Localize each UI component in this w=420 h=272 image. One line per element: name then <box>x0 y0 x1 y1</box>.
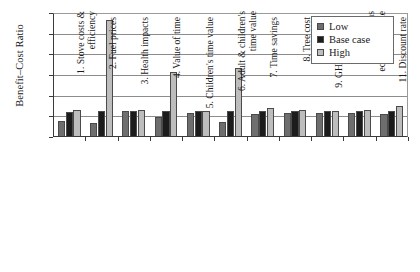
y-tick-mark <box>49 137 53 138</box>
legend-item-low: Low <box>317 20 388 33</box>
x-label-line: 7. Time savings <box>268 17 279 141</box>
x-label-line: efficiency <box>86 11 97 135</box>
legend-label: Base case <box>329 34 370 46</box>
x-axis-label: 5. Children's time value <box>204 17 228 141</box>
x-label-line: 2. Fuel prices <box>107 17 118 141</box>
x-axis-label: 3. Health impacts <box>139 17 163 141</box>
legend-swatch-low <box>317 23 324 30</box>
legend-swatch-high <box>317 49 324 56</box>
x-axis-label: 7. Time savings <box>268 17 292 141</box>
x-label-line: 5. Children's time value <box>204 17 215 141</box>
y-axis-title: Benefit–Cost Ratio <box>14 16 25 116</box>
x-label-line: 11. Discount rate <box>397 17 408 141</box>
x-axis-label: 1. Stove costs &efficiency <box>75 11 99 135</box>
x-label-line: time value <box>247 11 258 135</box>
legend-label: High <box>329 47 350 59</box>
legend-label: Low <box>329 21 348 33</box>
x-axis-label: 6. Adult & children'stime value <box>236 11 260 135</box>
x-axis-category-labels: 1. Stove costs &efficiency2. Fuel prices… <box>53 141 408 269</box>
x-label-line: 1. Stove costs & <box>75 11 86 135</box>
chart-legend: LowBase caseHigh <box>311 16 394 64</box>
legend-item-high: High <box>317 46 388 59</box>
x-axis-label: 11. Discount rate <box>397 17 420 141</box>
x-label-line: 3. Health impacts <box>139 17 150 141</box>
x-label-line: 6. Adult & children's <box>236 11 247 135</box>
x-label-line: 4. Value of time <box>171 17 182 141</box>
benefit-cost-ratio-bar-chart: Benefit–Cost Ratio 051015202530 1. Stove… <box>0 0 420 272</box>
x-axis-label: 2. Fuel prices <box>107 17 131 141</box>
x-axis-label: 4. Value of time <box>171 17 195 141</box>
legend-swatch-base <box>317 36 324 43</box>
legend-item-base: Base case <box>317 33 388 46</box>
